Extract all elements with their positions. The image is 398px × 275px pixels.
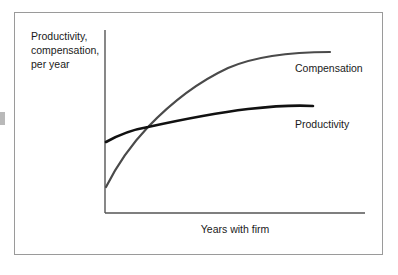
y-axis-label-line-1: Productivity, xyxy=(31,30,87,42)
series-label-compensation: Compensation xyxy=(295,62,363,74)
y-axis-label-line-3: per year xyxy=(31,58,70,70)
series-line-productivity xyxy=(106,106,313,142)
x-axis-label: Years with firm xyxy=(201,223,270,235)
figure-root: Productivity, compensation, per year Yea… xyxy=(0,0,398,275)
y-axis-label-line-2: compensation, xyxy=(31,44,99,56)
series-label-productivity: Productivity xyxy=(295,118,350,130)
productivity-compensation-chart: Productivity, compensation, per year Yea… xyxy=(0,0,398,275)
